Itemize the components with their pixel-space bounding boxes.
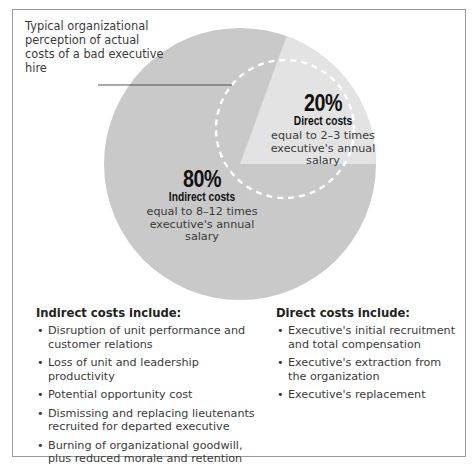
bullet-icon: • [37,439,44,453]
indirect-costs-label: 80% Indirect costs equal to 8–12 times e… [142,167,262,244]
bullet-icon: • [37,388,44,402]
list-item: •Dismissing and replacing lieutenants re… [36,407,256,434]
bullet-icon: • [37,356,44,370]
direct-list-title: Direct costs include: [276,306,456,320]
direct-percent: 20% [278,91,368,115]
direct-title: Direct costs [276,115,370,128]
list-item: •Burning of organizational goodwill, plu… [36,439,256,466]
bullet-icon: • [277,324,284,338]
bullet-icon: • [277,388,284,402]
perception-callout: Typical organizational perception of act… [25,19,165,75]
bullet-icon: • [277,356,284,370]
list-item: •Executive's replacement [276,388,456,402]
direct-costs-list: Direct costs include: •Executive's initi… [276,306,456,407]
list-item: •Loss of unit and leadership productivit… [36,356,256,383]
bullet-icon: • [37,324,44,338]
direct-costs-label: 20% Direct costs equal to 2–3 times exec… [268,91,378,168]
indirect-title: Indirect costs [151,191,253,204]
indirect-percent: 80% [153,167,251,191]
list-item: •Executive's extraction from the organiz… [276,356,456,383]
indirect-list-title: Indirect costs include: [36,306,256,320]
list-item: •Disruption of unit performance and cust… [36,324,256,351]
bullet-icon: • [37,407,44,421]
indirect-description: equal to 8–12 times executive's annual s… [142,206,262,244]
indirect-costs-list: Indirect costs include: •Disruption of u… [36,306,256,466]
direct-description: equal to 2–3 times executive's annual sa… [268,130,378,168]
list-item: •Executive's initial recruitment and tot… [276,324,456,351]
list-item: •Potential opportunity cost [36,388,256,402]
